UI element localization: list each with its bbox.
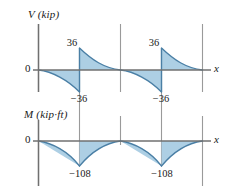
shear-peak-label-1: 36 [62,37,82,48]
moment-fill-span2 [80,141,121,166]
moment-fill-span4 [162,141,203,166]
shear-fill-span2 [80,48,121,70]
shear-trough-label-1: −36 [65,93,93,104]
shear-peak-label-2: 36 [144,37,164,48]
moment-diagram [33,120,211,186]
shear-axis-label: V (kip) [28,8,59,20]
diagram-canvas [0,0,240,191]
shear-fill-span4 [162,48,203,70]
moment-fill-span1 [39,141,80,166]
shear-x-axis-label: x [214,62,219,74]
moment-axis-label: M (kip·ft) [24,108,68,120]
shear-zero-label: 0 [25,62,31,74]
shear-moment-figure: V (kip) 0 x 36 36 −36 −36 M (kip·ft) 0 x… [0,0,240,191]
shear-fill-span1 [39,70,80,92]
shear-fill-span3 [121,70,162,92]
moment-x-axis-label: x [214,133,219,145]
moment-trough-label-2: −108 [143,168,181,179]
shear-diagram [33,24,211,92]
moment-fill-span3 [121,141,162,166]
moment-zero-label: 0 [25,133,31,145]
shear-trough-label-2: −36 [147,93,175,104]
moment-trough-label-1: −108 [61,168,99,179]
gridlines-group [39,24,203,186]
